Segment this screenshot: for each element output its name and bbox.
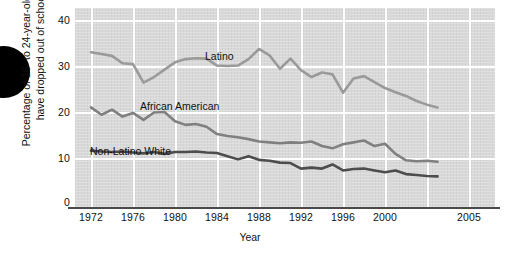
- y-axis-title-line1: Percentage of 16- to 24-year-olds who: [19, 0, 33, 157]
- series-label-african-american: African American: [140, 100, 219, 112]
- x-tick-label-2000: 2000: [362, 211, 408, 223]
- x-tick-label-1992: 1992: [278, 211, 324, 223]
- x-tick-label-1972: 1972: [68, 211, 114, 223]
- series-lines: [75, 8, 495, 207]
- x-tick-label-1984: 1984: [194, 211, 240, 223]
- x-tick-label-2005: 2005: [446, 211, 492, 223]
- dropout-rate-line-chart: Latino African American Non-Latino White…: [0, 0, 524, 254]
- plot-area: Latino African American Non-Latino White: [75, 8, 495, 207]
- x-axis-line: [68, 207, 500, 209]
- x-tick-label-1988: 1988: [236, 211, 282, 223]
- y-axis-title: Percentage of 16- to 24-year-olds who ha…: [19, 0, 53, 157]
- x-tick-label-1980: 1980: [152, 211, 198, 223]
- x-tick-label-1976: 1976: [110, 211, 156, 223]
- series-label-latino: Latino: [205, 50, 234, 62]
- series-line-latino: [91, 49, 438, 107]
- y-axis-title-line2: have dropped out of school: [33, 0, 47, 157]
- x-tick-label-1996: 1996: [320, 211, 366, 223]
- x-axis-title: Year: [0, 231, 524, 243]
- series-label-non-latino-white: Non-Latino White: [90, 145, 171, 157]
- x-axis-title-text: Year: [239, 231, 260, 243]
- y-tick-label-0: 0: [44, 196, 70, 208]
